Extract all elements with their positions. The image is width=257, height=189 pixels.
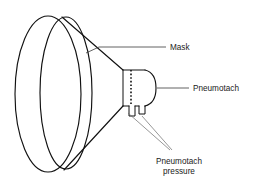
pressure-port-right [139, 106, 145, 114]
mask-cone-bottom-edge [64, 106, 123, 170]
label-pneumotach: Pneumotach [193, 84, 239, 93]
label-pneumotach-pressure-line2: pressure [163, 167, 195, 176]
pneumotach-pressure-leader-lines [128, 113, 172, 150]
mask-pneumotach-diagram: Mask Pneumotach Pneumotach pressure [0, 0, 257, 189]
mask-rim-inner-ellipse [40, 17, 92, 169]
label-pneumotach-pressure-line1: Pneumotach [156, 157, 202, 166]
mask-leader-line [86, 47, 166, 53]
pressure-ports [129, 106, 145, 116]
pressure-leader-left [128, 113, 170, 150]
diagram-canvas: Mask Pneumotach Pneumotach pressure [0, 0, 257, 189]
pressure-leader-right [142, 116, 172, 150]
pneumotach-end-cap [145, 70, 156, 106]
mask-leader-path [86, 47, 166, 53]
mask-rim [15, 16, 92, 172]
pneumotach-body [123, 70, 156, 106]
mask-cone-top-edge [62, 17, 123, 70]
label-mask: Mask [170, 43, 190, 52]
